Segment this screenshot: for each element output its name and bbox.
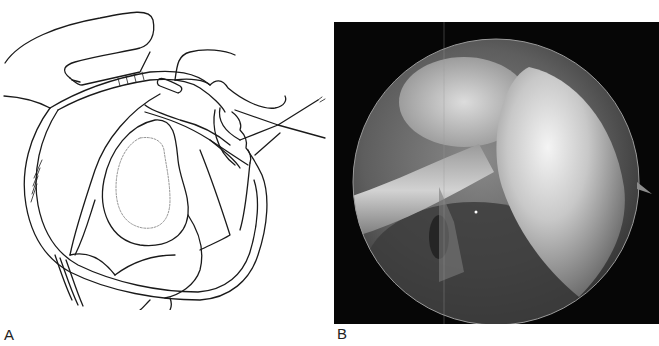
panel-label-b: B <box>337 326 347 341</box>
shoulder-line-drawing <box>0 0 330 310</box>
panel-label-a: A <box>4 327 14 342</box>
arthroscopic-view <box>334 22 659 324</box>
panel-a-illustration <box>0 0 330 310</box>
panel-b-arthroscopic-image <box>334 22 659 324</box>
